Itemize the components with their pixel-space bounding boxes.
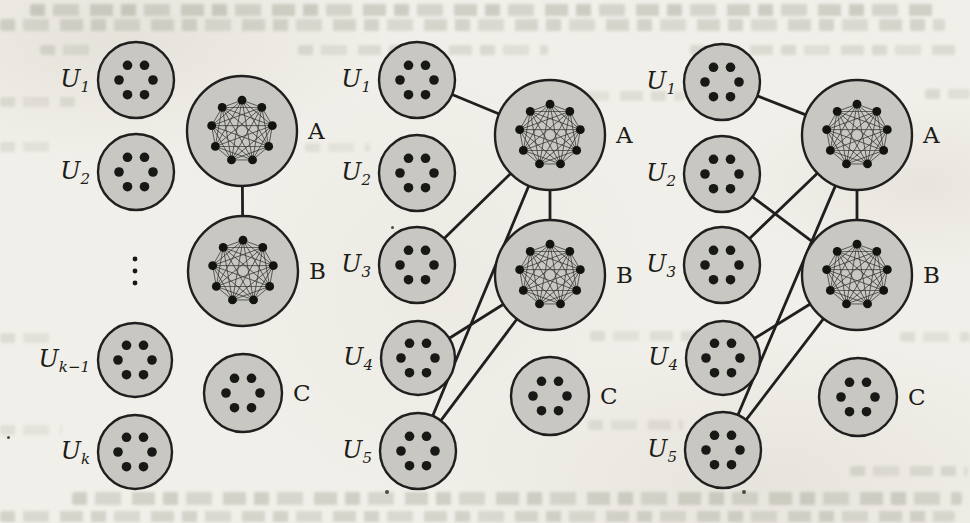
clique-node	[515, 265, 524, 274]
set-U1-middle: U1	[341, 42, 455, 118]
set-circle-U2	[684, 136, 760, 212]
ellipsis-dot	[133, 281, 138, 286]
label-C-right: C	[908, 384, 926, 410]
vertical-ellipsis	[133, 257, 138, 286]
set-U2-left: U2	[60, 134, 174, 210]
vertex-dot	[395, 75, 405, 85]
vertex-dot	[123, 182, 133, 192]
vertex-dot	[727, 460, 737, 470]
clique-node	[258, 243, 267, 252]
vertex-dot	[709, 245, 719, 255]
set-U5-middle: U5	[342, 413, 456, 489]
set-U5-right: U5	[647, 412, 761, 488]
vertex-dot	[554, 376, 564, 386]
clique-node	[879, 286, 888, 295]
vertex-dot	[727, 368, 737, 378]
vertex-dot	[429, 75, 439, 85]
set-C-left: C	[204, 354, 311, 432]
vertex-dot	[845, 377, 855, 387]
vertex-dot	[140, 90, 150, 100]
vertex-dot	[421, 153, 431, 163]
clique-node	[268, 121, 277, 130]
set-circle-U1	[379, 42, 455, 118]
set-circle-Uk1	[98, 323, 172, 397]
set-U1-left: U1	[60, 42, 174, 118]
vertex-dot	[396, 446, 406, 456]
clique-node	[248, 156, 257, 165]
clique-node	[238, 96, 247, 105]
set-U2-right: U2	[646, 136, 760, 212]
vertex-dot	[537, 376, 547, 386]
clique-node	[519, 286, 528, 295]
set-B-middle: B	[495, 220, 633, 330]
clique-node	[883, 265, 892, 274]
label-U2-left: U2	[60, 157, 90, 188]
vertex-dot	[709, 62, 719, 72]
set-circle-C	[511, 357, 589, 435]
vertex-dot	[139, 340, 149, 350]
set-circle-U1	[98, 42, 174, 118]
vertex-dot	[404, 183, 414, 193]
vertex-dot	[421, 60, 431, 70]
vertex-dot	[148, 75, 158, 85]
set-circle-U2	[379, 135, 455, 211]
clique-node	[576, 125, 585, 134]
panel-right: U1U2U3U4U5ABC	[646, 44, 940, 488]
vertex-dot	[247, 373, 257, 383]
vertex-dot	[710, 430, 720, 440]
clique-node	[264, 142, 273, 151]
vertex-dot	[726, 245, 736, 255]
vertex-dot	[430, 353, 440, 363]
vertex-dot	[147, 355, 157, 365]
clique-node	[249, 296, 258, 305]
vertex-dot	[123, 152, 133, 162]
clique-node	[535, 160, 544, 169]
vertex-dot	[845, 407, 855, 417]
vertex-dot	[140, 152, 150, 162]
vertex-dot	[140, 182, 150, 192]
vertex-dot	[395, 260, 405, 270]
vertex-dot	[230, 373, 240, 383]
set-circle-B	[495, 220, 605, 330]
vertex-dot	[148, 167, 158, 177]
set-circle-U5	[685, 412, 761, 488]
clique-node	[546, 100, 555, 109]
set-U4-right: U4	[648, 321, 760, 395]
vertex-dot	[123, 90, 133, 100]
set-A-right: A	[802, 80, 940, 190]
clique-node	[879, 146, 888, 155]
label-U1-right: U1	[646, 67, 676, 98]
label-U3-middle: U3	[341, 250, 371, 281]
vertex-dot	[726, 154, 736, 164]
set-circle-B	[802, 220, 912, 330]
vertex-dot	[709, 184, 719, 194]
label-Uk-left: Uk	[61, 437, 90, 468]
vertex-dot	[114, 75, 124, 85]
vertex-dot	[147, 447, 157, 457]
set-circle-U2	[98, 134, 174, 210]
vertex-dot	[113, 355, 123, 365]
vertex-dot	[710, 338, 720, 348]
vertex-dot	[710, 368, 720, 378]
clique-node	[842, 160, 851, 169]
label-A-left: A	[307, 118, 325, 144]
set-C-right: C	[819, 358, 926, 436]
ellipsis-dot	[133, 269, 138, 274]
clique-node	[826, 146, 835, 155]
clique-node	[526, 107, 535, 116]
label-B-left: B	[309, 258, 326, 284]
clique-node	[863, 160, 872, 169]
vertex-dot	[701, 445, 711, 455]
label-U1-middle: U1	[341, 65, 371, 96]
set-Uk-left: Uk	[61, 415, 172, 489]
clique-node	[872, 247, 881, 256]
panel-middle: U1U2U3U4U5ABC	[341, 42, 633, 489]
clique-node	[853, 100, 862, 109]
clique-node	[515, 125, 524, 134]
set-U2-middle: U2	[341, 135, 455, 211]
vertex-dot	[139, 432, 149, 442]
vertex-dot	[122, 462, 132, 472]
set-circle-U4	[686, 321, 760, 395]
label-A-right: A	[922, 122, 940, 148]
set-U3-middle: U3	[341, 227, 455, 303]
